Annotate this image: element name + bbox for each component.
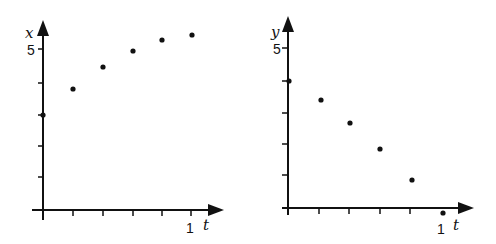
data-points [40,32,194,117]
y-axis-label: y [270,23,280,41]
y-tick-label-5: 5 [273,41,281,57]
chart-y-vs-t: y 5 1 t [270,16,474,237]
data-points [286,78,445,215]
x-axis-label: t [203,216,210,234]
y-axis-arrow-icon [37,20,49,36]
x-axis-arrow-icon [458,202,474,214]
x-tick-label-1: 1 [186,220,194,236]
y-axis-arrow-icon [282,16,294,32]
y-tick-label-5: 5 [27,42,35,58]
x-axis-arrow-icon [208,204,224,216]
x-tick-label-1: 1 [437,221,445,237]
chart-x-vs-t: x 5 1 t [25,20,224,236]
y-axis-label: x [25,24,34,42]
charts-canvas: x 5 1 t y [0,0,496,244]
x-axis-label: t [453,216,460,234]
